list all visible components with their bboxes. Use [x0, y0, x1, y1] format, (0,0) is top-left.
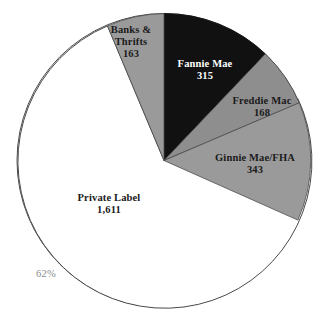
percent-annotation: 62% [36, 268, 56, 279]
clipped-footer-text [0, 316, 323, 322]
pie-chart: Banks & Thrifts 163 Fannie Mae 315 Fredd… [0, 0, 323, 322]
